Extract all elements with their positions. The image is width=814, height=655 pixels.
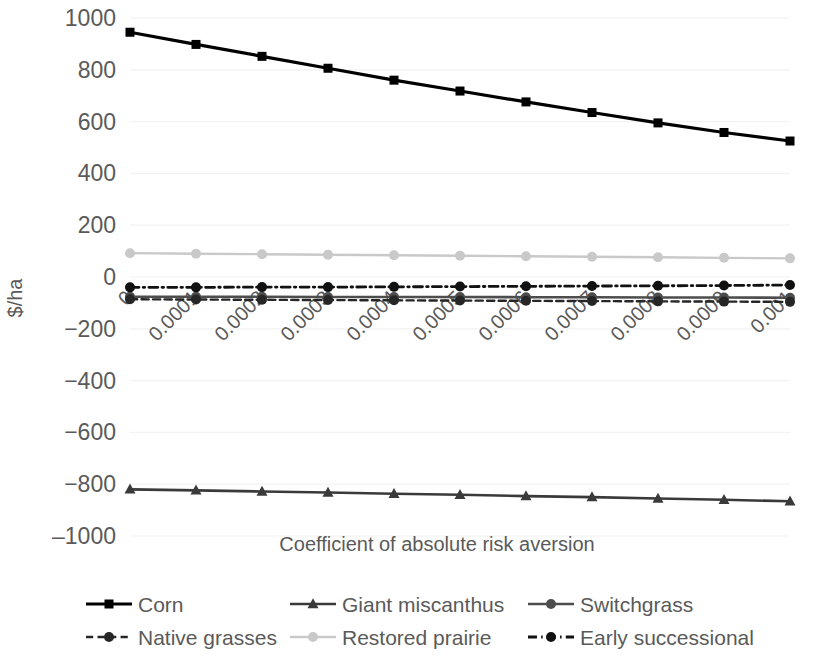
legend-label: Native grasses bbox=[138, 626, 277, 649]
y-tick-label: −200 bbox=[64, 316, 116, 342]
data-point-marker bbox=[258, 52, 267, 61]
y-tick-label: 600 bbox=[78, 109, 116, 135]
data-point-marker bbox=[125, 294, 135, 304]
legend-label: Corn bbox=[138, 593, 184, 616]
data-point-marker bbox=[257, 282, 267, 292]
data-point-marker bbox=[389, 282, 399, 292]
y-tick-label: ‒1000 bbox=[52, 523, 116, 549]
data-point-marker bbox=[389, 250, 399, 260]
x-axis-tick-labels: 00.00010.00020.00030.00040.00050.00060.0… bbox=[113, 286, 796, 345]
data-point-marker bbox=[719, 253, 729, 263]
legend-item-restored-prairie[interactable]: Restored prairie bbox=[290, 626, 491, 649]
legend-label: Switchgrass bbox=[580, 593, 693, 616]
data-point-marker bbox=[125, 248, 135, 258]
data-point-marker bbox=[125, 282, 135, 292]
y-tick-label: 200 bbox=[78, 212, 116, 238]
legend-item-early-successional[interactable]: Early successional bbox=[528, 626, 754, 649]
legend-label: Early successional bbox=[580, 626, 754, 649]
series-early-successional bbox=[125, 280, 795, 292]
legend-item-switchgrass[interactable]: Switchgrass bbox=[528, 593, 693, 616]
legend-item-native-grasses[interactable]: Native grasses bbox=[86, 626, 277, 649]
data-point-marker bbox=[653, 281, 663, 291]
data-point-marker bbox=[522, 97, 531, 106]
y-axis-title: $/ha bbox=[4, 278, 26, 318]
chart-legend: CornGiant miscanthusSwitchgrassNative gr… bbox=[86, 593, 754, 649]
legend-item-corn[interactable]: Corn bbox=[86, 593, 184, 616]
data-point-marker bbox=[105, 600, 114, 609]
series-giant-miscanthus bbox=[125, 484, 796, 506]
data-point-marker bbox=[324, 64, 333, 73]
legend-label: Restored prairie bbox=[342, 626, 491, 649]
data-point-marker bbox=[588, 108, 597, 117]
data-point-marker bbox=[653, 296, 663, 306]
data-point-marker bbox=[191, 295, 201, 305]
data-point-marker bbox=[654, 118, 663, 127]
data-point-marker bbox=[257, 295, 267, 305]
y-tick-label: −800 bbox=[64, 471, 116, 497]
data-point-marker bbox=[521, 296, 531, 306]
data-point-marker bbox=[455, 251, 465, 261]
data-point-marker bbox=[126, 28, 135, 37]
data-point-marker bbox=[785, 253, 795, 263]
x-axis-title: Coefficient of absolute risk aversion bbox=[279, 533, 594, 555]
data-point-marker bbox=[587, 252, 597, 262]
data-point-marker bbox=[104, 632, 114, 642]
data-point-marker bbox=[455, 296, 465, 306]
data-point-marker bbox=[191, 282, 201, 292]
data-point-marker bbox=[719, 281, 729, 291]
legend-item-giant-miscanthus[interactable]: Giant miscanthus bbox=[290, 593, 504, 616]
data-point-marker bbox=[390, 76, 399, 85]
y-tick-label: −400 bbox=[64, 368, 116, 394]
data-point-marker bbox=[786, 137, 795, 146]
data-point-marker bbox=[456, 87, 465, 96]
data-point-marker bbox=[653, 252, 663, 262]
data-point-marker bbox=[546, 599, 556, 609]
chart-svg: 10008006004002000−200−400−600−800‒1000 0… bbox=[0, 0, 814, 655]
data-point-marker bbox=[455, 282, 465, 292]
data-point-marker bbox=[257, 249, 267, 259]
data-point-marker bbox=[192, 40, 201, 49]
data-series-layer bbox=[125, 28, 796, 506]
chart-figure: 10008006004002000−200−400−600−800‒1000 0… bbox=[0, 0, 814, 655]
data-point-marker bbox=[521, 251, 531, 261]
data-point-marker bbox=[720, 128, 729, 137]
y-tick-label: −600 bbox=[64, 419, 116, 445]
data-point-marker bbox=[521, 281, 531, 291]
data-point-marker bbox=[323, 295, 333, 305]
y-tick-label: 0 bbox=[103, 264, 116, 290]
data-point-marker bbox=[587, 296, 597, 306]
data-point-marker bbox=[191, 249, 201, 259]
legend-label: Giant miscanthus bbox=[342, 593, 504, 616]
data-point-marker bbox=[785, 280, 795, 290]
y-tick-label: 1000 bbox=[65, 5, 116, 31]
data-point-marker bbox=[719, 297, 729, 307]
data-point-marker bbox=[308, 632, 318, 642]
data-point-marker bbox=[546, 632, 556, 642]
data-point-marker bbox=[323, 282, 333, 292]
data-point-marker bbox=[389, 295, 399, 305]
y-tick-label: 800 bbox=[78, 57, 116, 83]
y-tick-label: 400 bbox=[78, 160, 116, 186]
y-axis-tick-labels: 10008006004002000−200−400−600−800‒1000 bbox=[52, 5, 116, 549]
data-point-marker bbox=[323, 250, 333, 260]
series-corn bbox=[126, 28, 795, 146]
data-point-marker bbox=[785, 297, 795, 307]
data-point-marker bbox=[587, 281, 597, 291]
series-restored-prairie bbox=[125, 248, 795, 263]
gridlines bbox=[130, 18, 790, 536]
